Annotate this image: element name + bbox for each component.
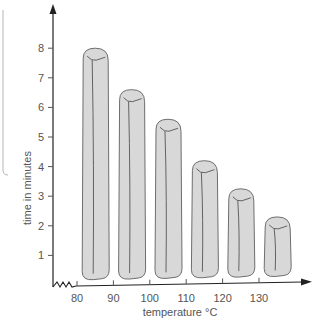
x-tick-label: 90 xyxy=(107,292,119,304)
chart: 12345678 time in minutes 809010011012013… xyxy=(0,0,319,335)
x-tick-label: 110 xyxy=(177,292,195,304)
y-tick-label: 8 xyxy=(38,42,44,54)
x-axis-line xyxy=(76,282,303,286)
y-tick-label: 6 xyxy=(38,101,44,113)
y-tick-label: 4 xyxy=(38,161,44,173)
y-axis-arrow-icon xyxy=(50,4,57,14)
bar xyxy=(191,161,218,278)
x-tick-label: 100 xyxy=(141,292,159,304)
x-ticks-group: 8090100110120130 xyxy=(71,278,268,304)
y-tick-label: 5 xyxy=(38,131,44,143)
y-tick-label: 7 xyxy=(38,72,44,84)
bar xyxy=(264,217,291,277)
bar xyxy=(119,90,146,279)
x-tick-label: 80 xyxy=(71,292,83,304)
bar-body xyxy=(191,161,218,278)
x-axis-arrow-icon xyxy=(301,279,312,286)
y-ticks-group: 12345678 xyxy=(38,42,53,261)
x-tick-label: 120 xyxy=(213,292,231,304)
y-tick-label: 2 xyxy=(38,220,44,232)
bar-body xyxy=(82,48,109,280)
bar-body xyxy=(119,90,146,279)
bar xyxy=(228,189,255,277)
bar-body xyxy=(155,119,182,278)
bars-group xyxy=(82,48,291,280)
neighbor-panel-edge xyxy=(3,10,8,175)
y-axis-title: time in minutes xyxy=(21,151,33,225)
x-axis-break-zigzag xyxy=(53,282,76,287)
x-tick-label: 130 xyxy=(250,292,268,304)
y-tick-label: 1 xyxy=(38,249,44,261)
x-axis-title: temperature °C xyxy=(143,306,218,318)
bar-body xyxy=(228,189,255,277)
bar xyxy=(155,119,182,278)
y-tick-label: 3 xyxy=(38,190,44,202)
bar xyxy=(82,48,109,280)
